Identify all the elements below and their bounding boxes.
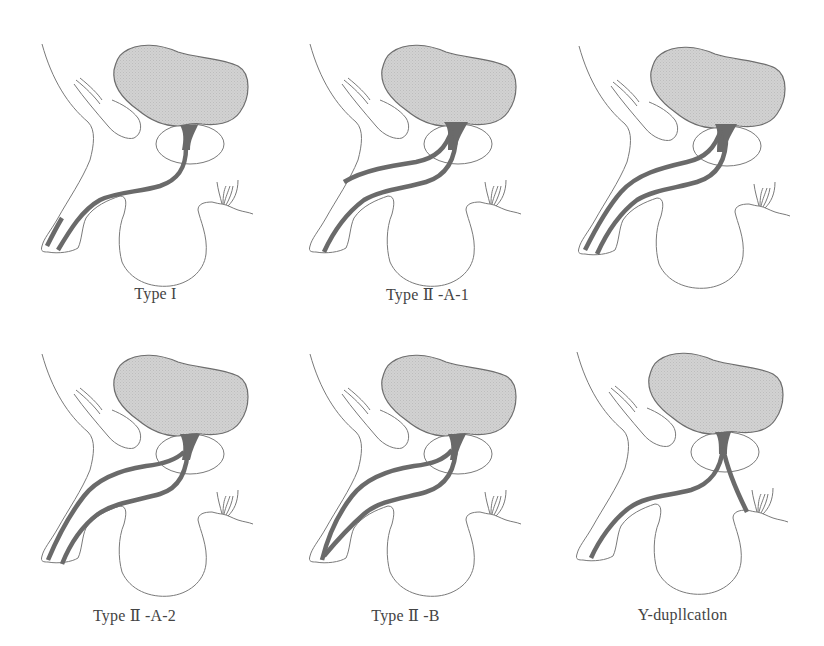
panel-label: Type I (18, 285, 293, 303)
panel-type-2a2: Type Ⅱ -A-2 (0, 322, 275, 644)
anatomy-illustration (274, 0, 549, 322)
urethra-main (591, 448, 723, 558)
anatomy-illustration (549, 0, 824, 322)
anatomy-illustration (549, 322, 824, 644)
urethra-main (58, 148, 186, 250)
panel-y-duplication: Y-dupllcatlon (549, 322, 824, 644)
anatomy-illustration (0, 322, 275, 644)
panel-label: Type Ⅱ -B (268, 606, 543, 625)
panel-type-2a1-variant (549, 0, 824, 322)
anatomy-illustration (274, 322, 549, 644)
bladder-neck (180, 125, 198, 150)
urethra-perineal (723, 448, 747, 512)
panel-label: Type Ⅱ -A-2 (0, 606, 272, 625)
panel-type-1: Type I (0, 0, 275, 322)
panel-type-2a1: Type Ⅱ -A-1 (274, 0, 549, 322)
urethra-dorsal (344, 130, 452, 182)
panel-type-2b: Type Ⅱ -B (274, 322, 549, 644)
urethra-dorsal (585, 130, 721, 250)
panel-label: Y-dupllcatlon (545, 606, 820, 624)
anatomy-illustration (0, 0, 275, 322)
